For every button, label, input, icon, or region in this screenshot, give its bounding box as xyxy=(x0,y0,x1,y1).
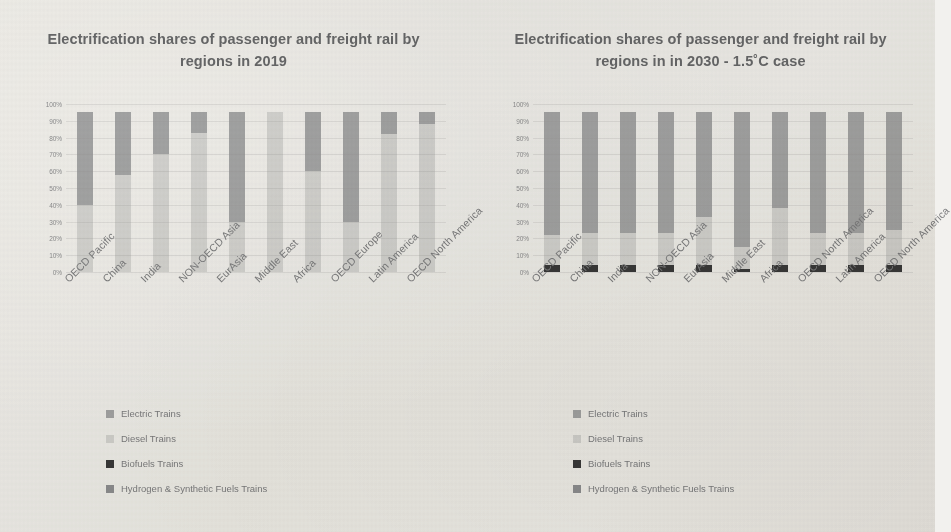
y-tick-label: 20% xyxy=(49,235,62,242)
y-tick-label: 70% xyxy=(516,151,529,158)
gridline xyxy=(533,138,913,139)
y-tick-label: 30% xyxy=(49,218,62,225)
bar-segment-electric[interactable] xyxy=(419,112,435,124)
legend-label: Electric Trains xyxy=(588,408,648,419)
gridline xyxy=(533,205,913,206)
legend-2030: Electric TrainsDiesel TrainsBiofuels Tra… xyxy=(573,408,734,494)
y-tick-label: 10% xyxy=(516,252,529,259)
gridline xyxy=(533,154,913,155)
plot-canvas-2030 xyxy=(533,104,913,272)
y-tick-label: 70% xyxy=(49,151,62,158)
gridline xyxy=(533,121,913,122)
bar-segment-electric[interactable] xyxy=(191,112,207,132)
legend-swatch-biofuels xyxy=(573,460,581,468)
legend-item[interactable]: Electric Trains xyxy=(573,408,734,419)
gridline xyxy=(533,188,913,189)
bar-segment-electric[interactable] xyxy=(582,112,598,233)
bar-segment-electric[interactable] xyxy=(620,112,636,233)
bar-segment-electric[interactable] xyxy=(658,112,674,233)
bar-segment-electric[interactable] xyxy=(810,112,826,233)
gridline xyxy=(66,104,446,105)
y-tick-label: 10% xyxy=(49,252,62,259)
legend-label: Hydrogen & Synthetic Fuels Trains xyxy=(588,483,734,494)
gridline xyxy=(66,188,446,189)
gridline xyxy=(66,154,446,155)
y-tick-label: 20% xyxy=(516,235,529,242)
gridline xyxy=(533,104,913,105)
y-tick-label: 90% xyxy=(49,117,62,124)
legend-item[interactable]: Biofuels Trains xyxy=(573,458,734,469)
legend-2019: Electric TrainsDiesel TrainsBiofuels Tra… xyxy=(106,408,267,494)
gridline xyxy=(66,121,446,122)
bar-segment-electric[interactable] xyxy=(734,112,750,246)
legend-swatch-diesel xyxy=(106,435,114,443)
y-tick-label: 30% xyxy=(516,218,529,225)
y-tick-label: 100% xyxy=(513,101,529,108)
legend-label: Electric Trains xyxy=(121,408,181,419)
legend-item[interactable]: Hydrogen & Synthetic Fuels Trains xyxy=(106,483,267,494)
legend-item[interactable]: Diesel Trains xyxy=(106,433,267,444)
gridline xyxy=(66,138,446,139)
y-tick-label: 0% xyxy=(53,269,62,276)
gridline xyxy=(66,222,446,223)
y-tick-label: 40% xyxy=(49,201,62,208)
legend-swatch-diesel xyxy=(573,435,581,443)
y-tick-label: 100% xyxy=(46,101,62,108)
x-axis-labels-2019: OECD PacificChinaIndiaNON-OECD AsiaEurAs… xyxy=(66,276,446,386)
legend-item[interactable]: Electric Trains xyxy=(106,408,267,419)
y-tick-label: 40% xyxy=(516,201,529,208)
y-tick-label: 80% xyxy=(516,134,529,141)
y-axis-2019: 100%90%80%70%60%50%40%30%20%10%0% xyxy=(34,104,64,272)
legend-swatch-hydrogen xyxy=(106,485,114,493)
x-axis-labels-2030: OECD PacificChinaIndiaNON-OECD AsiaEurAs… xyxy=(533,276,913,386)
legend-label: Biofuels Trains xyxy=(121,458,183,469)
gridline xyxy=(66,171,446,172)
bar-segment-electric[interactable] xyxy=(381,112,397,134)
legend-item[interactable]: Biofuels Trains xyxy=(106,458,267,469)
chart-panel-2030: Electrification shares of passenger and … xyxy=(467,0,934,532)
chart-title-2030: Electrification shares of passenger and … xyxy=(491,28,910,73)
legend-swatch-electric xyxy=(573,410,581,418)
legend-label: Diesel Trains xyxy=(588,433,643,444)
gridline xyxy=(533,238,913,239)
y-tick-label: 0% xyxy=(520,269,529,276)
legend-swatch-electric xyxy=(106,410,114,418)
legend-item[interactable]: Diesel Trains xyxy=(573,433,734,444)
y-tick-label: 60% xyxy=(49,168,62,175)
bar-segment-electric[interactable] xyxy=(544,112,560,235)
bar-segment-electric[interactable] xyxy=(77,112,93,204)
gridline xyxy=(533,171,913,172)
chart-panel-2019: Electrification shares of passenger and … xyxy=(0,0,467,532)
bar-segment-electric[interactable] xyxy=(696,112,712,216)
y-tick-label: 50% xyxy=(49,185,62,192)
legend-swatch-hydrogen xyxy=(573,485,581,493)
legend-label: Diesel Trains xyxy=(121,433,176,444)
legend-swatch-biofuels xyxy=(106,460,114,468)
chart-title-2019: Electrification shares of passenger and … xyxy=(24,28,443,73)
gridline xyxy=(66,205,446,206)
y-axis-2030: 100%90%80%70%60%50%40%30%20%10%0% xyxy=(501,104,531,272)
plot-canvas-2019 xyxy=(66,104,446,272)
legend-label: Hydrogen & Synthetic Fuels Trains xyxy=(121,483,267,494)
y-tick-label: 50% xyxy=(516,185,529,192)
legend-item[interactable]: Hydrogen & Synthetic Fuels Trains xyxy=(573,483,734,494)
bar-segment-electric[interactable] xyxy=(772,112,788,208)
y-tick-label: 80% xyxy=(49,134,62,141)
gridline xyxy=(66,238,446,239)
y-tick-label: 90% xyxy=(516,117,529,124)
bar-segment-electric[interactable] xyxy=(153,112,169,154)
y-tick-label: 60% xyxy=(516,168,529,175)
legend-label: Biofuels Trains xyxy=(588,458,650,469)
